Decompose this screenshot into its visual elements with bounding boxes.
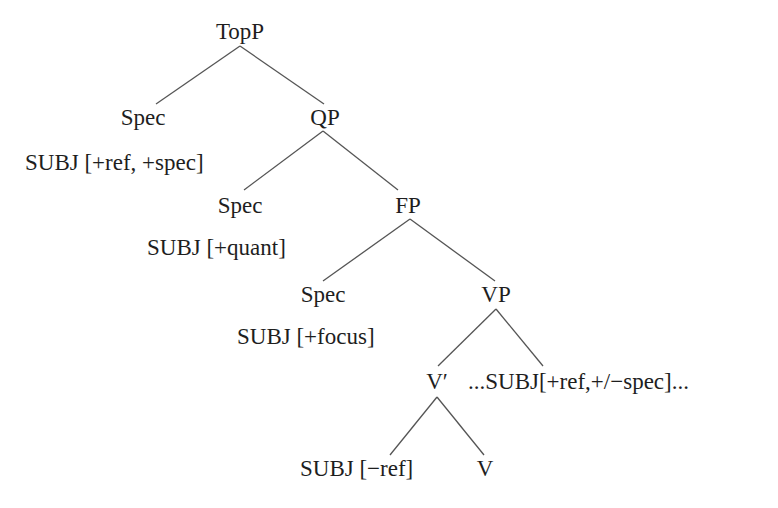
node-spec-qp: Spec xyxy=(218,194,263,218)
edge-vp-vbar xyxy=(438,309,496,366)
tree-edges xyxy=(0,0,778,508)
edge-topp-qp xyxy=(240,46,324,104)
node-v: V xyxy=(477,457,494,481)
edge-topp-spec xyxy=(156,46,240,104)
node-fp: FP xyxy=(395,194,421,218)
spec-fp-content: SUBJ [+focus] xyxy=(237,325,375,349)
edge-qp-spec xyxy=(244,131,323,190)
edge-qp-fp xyxy=(323,131,398,190)
node-vp: VP xyxy=(481,283,510,307)
node-subj-noref: SUBJ [−ref] xyxy=(300,457,413,481)
node-topp: TopP xyxy=(216,20,264,44)
node-qp: QP xyxy=(310,106,339,130)
edge-vbar-v xyxy=(437,397,484,455)
edge-fp-vp xyxy=(410,219,495,281)
spec-qp-content: SUBJ [+quant] xyxy=(147,236,286,260)
node-spec-topp: Spec xyxy=(121,106,166,130)
node-spec-fp: Spec xyxy=(301,283,346,307)
node-vbar: V′ xyxy=(426,370,448,394)
spec-topp-content: SUBJ [+ref, +spec] xyxy=(25,151,204,175)
edge-fp-spec xyxy=(323,219,410,281)
node-vp-complement: ...SUBJ[+ref,+/−spec]... xyxy=(468,370,689,394)
edge-vbar-subj xyxy=(390,397,437,455)
edge-vp-complement xyxy=(496,309,543,366)
